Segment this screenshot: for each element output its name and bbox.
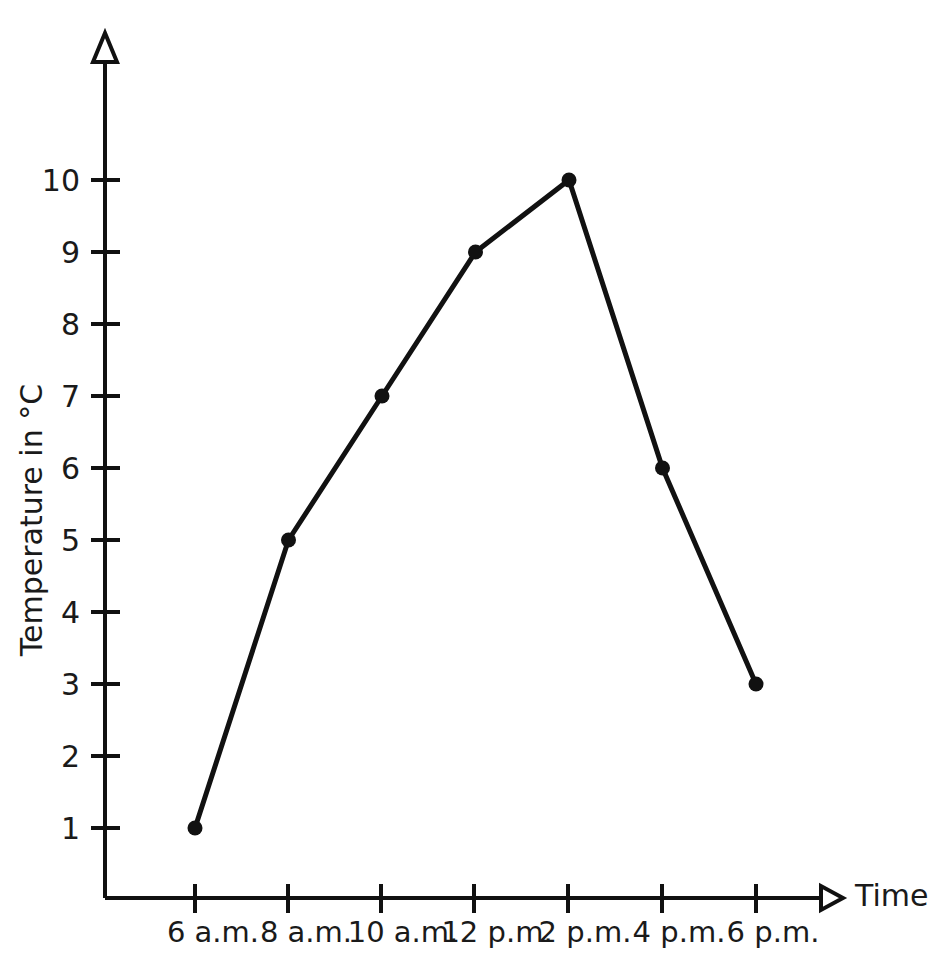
y-tick-label-9: 9 xyxy=(61,235,80,270)
y-axis-title: Temperature in °C xyxy=(14,384,49,657)
data-point xyxy=(749,677,764,692)
y-tick-label-2: 2 xyxy=(61,739,80,774)
data-point xyxy=(655,461,670,476)
data-point xyxy=(375,389,390,404)
x-tick-label-12pm: 12 p.m. xyxy=(441,915,552,949)
x-tick-label-2pm: 2 p.m. xyxy=(539,915,632,949)
x-tick-label-4pm: 4 p.m. xyxy=(633,915,726,949)
y-tick-label-4: 4 xyxy=(61,595,80,630)
data-point xyxy=(562,173,577,188)
y-tick-label-6: 6 xyxy=(61,451,80,486)
x-axis-title: Time xyxy=(854,878,928,913)
data-point xyxy=(468,245,483,260)
x-tick-label-6am: 6 a.m. xyxy=(167,915,259,949)
y-tick-label-1: 1 xyxy=(61,811,80,846)
x-tick-label-8am: 8 a.m. xyxy=(260,915,352,949)
data-point xyxy=(188,821,203,836)
y-tick-label-3: 3 xyxy=(61,667,80,702)
chart-background xyxy=(0,0,930,962)
y-tick-label-8: 8 xyxy=(61,307,80,342)
x-axis-tick-labels: 6 a.m. 8 a.m. 10 a.m. 12 p.m. 2 p.m. 4 p… xyxy=(167,915,819,949)
data-point xyxy=(281,533,296,548)
temperature-line-chart: 1 2 3 4 5 6 7 8 9 10 6 a.m. 8 a.m. 10 a.… xyxy=(0,0,930,962)
x-tick-label-6pm: 6 p.m. xyxy=(727,915,820,949)
y-tick-label-5: 5 xyxy=(61,523,80,558)
y-tick-label-10: 10 xyxy=(42,163,80,198)
y-tick-label-7: 7 xyxy=(61,379,80,414)
chart-canvas: 1 2 3 4 5 6 7 8 9 10 6 a.m. 8 a.m. 10 a.… xyxy=(0,0,930,962)
